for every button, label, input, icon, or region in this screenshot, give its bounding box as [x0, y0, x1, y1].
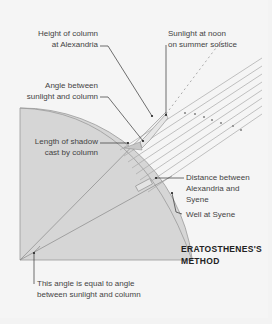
column-alexandria	[140, 114, 168, 148]
earth-quarter-circle	[20, 108, 192, 260]
label-angle-sun-column: Angle between sunlight and column	[0, 80, 98, 102]
diagram-title: ERATOSTHENES'S METHOD	[181, 243, 271, 267]
label-shadow-length: Length of shadow cast by column	[0, 136, 98, 158]
label-distance: Distance between Alexandria and Syene	[186, 172, 272, 205]
label-sunlight-noon: Sunlight at noon on summer solstice	[168, 28, 268, 50]
label-well: Well at Syene	[186, 209, 272, 220]
sunlight-dotted-ray	[166, 40, 222, 114]
label-column-height: Height of column at Alexandria	[10, 28, 98, 50]
label-angle-equal: This angle is equal to angle between sun…	[37, 278, 237, 300]
